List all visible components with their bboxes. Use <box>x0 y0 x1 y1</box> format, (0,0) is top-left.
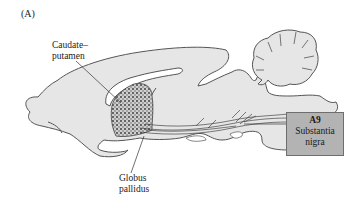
nucleus-code: A9 <box>287 115 343 126</box>
caudate-putamen-label-line2: putamen <box>52 51 88 62</box>
sagittal-brain-diagram <box>0 0 354 211</box>
globus-leader-line <box>131 136 144 173</box>
cerebellum <box>252 30 318 86</box>
panel-label: (A) <box>21 8 35 19</box>
figure-panel-a: (A) Caudate– putamen Globus pallidus A9 … <box>0 0 354 211</box>
nucleus-name-line1: Substantia <box>287 126 343 137</box>
globus-pallidus-label: Globus pallidus <box>119 173 149 195</box>
substantia-nigra-box: A9 Substantia nigra <box>286 112 344 156</box>
globus-pallidus-label-line1: Globus <box>119 173 149 184</box>
nucleus-name-line2: nigra <box>287 137 343 148</box>
globus-pallidus-label-line2: pallidus <box>119 184 149 195</box>
caudate-putamen-label: Caudate– putamen <box>52 40 88 62</box>
caudate-putamen-label-line1: Caudate– <box>52 40 88 51</box>
